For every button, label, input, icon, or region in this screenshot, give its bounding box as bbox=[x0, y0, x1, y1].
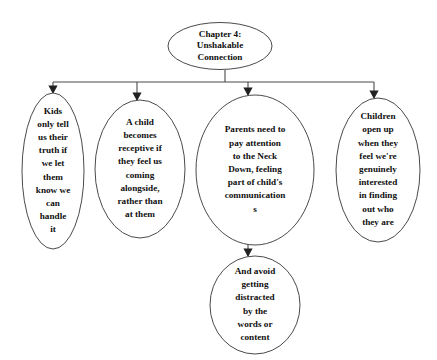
node-text-line: alongside, bbox=[120, 183, 159, 193]
children-open-up-label: Childrenopen upwhen theyfeel we'regenuin… bbox=[358, 111, 398, 227]
branch-nodes-group: Kidsonly tellus theirtruth ifwe letthemk… bbox=[22, 93, 420, 249]
node-text-line: we let bbox=[42, 159, 66, 169]
node-text-line: communication bbox=[225, 191, 286, 201]
node-text-line: truth if bbox=[39, 145, 68, 155]
node-text-line: words or bbox=[238, 319, 273, 329]
node-text-line: out who bbox=[362, 204, 394, 214]
node-text-line: only tell bbox=[37, 119, 69, 129]
node-text-line: coming bbox=[126, 170, 155, 180]
node-text-line: feel we're bbox=[359, 151, 396, 161]
node-text-line: Unshakable bbox=[197, 40, 243, 50]
node-text-line: rather than bbox=[118, 196, 163, 206]
node-child-receptive[interactable]: A childbecomesreceptive ifthey feel usco… bbox=[95, 100, 185, 238]
node-text-line: receptive if bbox=[118, 143, 162, 153]
node-text-line: them bbox=[43, 172, 63, 182]
node-text-line: Chapter 4: bbox=[199, 29, 241, 39]
flowchart-canvas: Chapter 4:UnshakableConnection Kidsonly … bbox=[0, 0, 437, 360]
parents-neck-down-label: Parents need topay attentionto the NeckD… bbox=[225, 125, 286, 214]
node-text-line: to the Neck bbox=[233, 151, 278, 161]
chapter-title-label: Chapter 4:UnshakableConnection bbox=[197, 29, 243, 62]
node-text-line: us their bbox=[38, 132, 68, 142]
node-text-line: in finding bbox=[359, 191, 397, 201]
node-text-line: s bbox=[253, 204, 257, 214]
node-text-line: Down, feeling bbox=[228, 164, 282, 174]
node-chapter-title[interactable]: Chapter 4:UnshakableConnection bbox=[168, 23, 272, 70]
node-text-line: handle bbox=[40, 211, 67, 221]
node-text-line: can bbox=[46, 198, 60, 208]
node-text-line: genuinely bbox=[359, 164, 397, 174]
node-avoid-distraction[interactable]: And avoidgettingdistractedby thewords or… bbox=[210, 256, 300, 354]
node-text-line: at them bbox=[125, 209, 155, 219]
node-text-line: by the bbox=[243, 306, 267, 316]
node-text-line: Kids bbox=[44, 106, 63, 116]
node-text-line: A child bbox=[126, 117, 154, 127]
node-text-line: content bbox=[240, 332, 270, 342]
branch-drop-lines bbox=[53, 82, 374, 100]
node-text-line: interested bbox=[359, 177, 398, 187]
node-parents-neck-down[interactable]: Parents need topay attentionto the NeckD… bbox=[196, 95, 314, 245]
node-text-line: they feel us bbox=[118, 157, 162, 167]
node-text-line: part of child's bbox=[228, 177, 283, 187]
node-text-line: And avoid bbox=[235, 266, 276, 276]
node-text-line: Parents need to bbox=[225, 125, 286, 135]
node-kids-truth[interactable]: Kidsonly tellus theirtruth ifwe letthemk… bbox=[22, 93, 84, 249]
node-text-line: distracted bbox=[235, 293, 274, 303]
node-text-line: know we bbox=[36, 185, 70, 195]
node-text-line: it bbox=[50, 225, 57, 235]
node-text-line: becomes bbox=[123, 130, 157, 140]
node-children-open-up[interactable]: Childrenopen upwhen theyfeel we'regenuin… bbox=[336, 98, 420, 242]
flowchart-svg: Chapter 4:UnshakableConnection Kidsonly … bbox=[0, 0, 437, 360]
node-text-line: when they bbox=[358, 138, 398, 148]
node-text-line: pay attention bbox=[229, 138, 281, 148]
node-text-line: they are bbox=[362, 217, 394, 227]
node-text-line: Connection bbox=[198, 52, 243, 62]
node-text-line: getting bbox=[241, 279, 268, 289]
node-text-line: Children bbox=[360, 111, 395, 121]
node-text-line: open up bbox=[362, 125, 393, 135]
